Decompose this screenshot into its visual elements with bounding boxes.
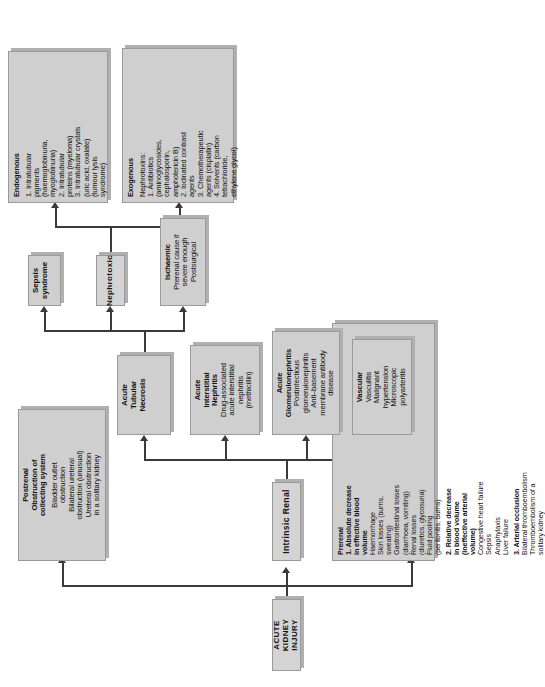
node-line: in a solitary kidney (93, 414, 102, 556)
node-line: Exogenous (127, 54, 135, 197)
connector-to-endogenous (55, 206, 57, 228)
connector-atn-vbus (44, 331, 184, 333)
arrow-ischaemic (179, 306, 187, 312)
node-acute-glomerulonephritis[interactable]: AcuteGlomerulonephritisPostinfectiousglo… (272, 331, 340, 435)
node-line: ethylene glycol) (230, 54, 238, 197)
node-line: collecting system (39, 414, 48, 556)
node-line: (methicillin) (245, 350, 254, 430)
node-exogenous[interactable]: Exogenous Nephrotoxins:1. Antibiotics(am… (122, 48, 234, 203)
arrow-ain (221, 435, 229, 441)
arrow-atn (140, 435, 148, 441)
node-nephrotoxic[interactable]: Nephrotoxic (96, 255, 125, 306)
node-line: Postsurgical (190, 223, 199, 301)
arrow-agn (302, 435, 310, 441)
connector-to-agn (306, 439, 308, 461)
node-line: disease (327, 336, 336, 430)
connector-to-sepsis (44, 310, 46, 332)
node-intrinsic-renal[interactable]: Intrinsic Renal (272, 482, 301, 561)
node-nephrotoxic-label: Nephrotoxic (106, 255, 115, 306)
connector-to-ischaemic (183, 310, 185, 332)
node-line: solitary kidney (537, 329, 545, 555)
connector-to-nephrotoxic (110, 310, 112, 332)
connector-to-atn (144, 439, 146, 461)
node-postrenal[interactable]: PostrenalObstruction ofcollecting system… (18, 409, 106, 561)
connector-intrinsic-bus (286, 460, 288, 482)
node-line: Congestive heart failure (477, 329, 485, 555)
connector-trunk-prerenal (411, 561, 413, 587)
connector-to-ain (225, 439, 227, 461)
node-line: (ineffective arterial (461, 329, 469, 555)
node-endogenous[interactable]: Endogenous 1. Intratubularpigments(haemo… (8, 51, 108, 203)
node-line: syndrome) (99, 57, 107, 197)
node-line: Endogenous (13, 57, 21, 197)
node-title-text: ACUTE KIDNEY INJURY (273, 604, 300, 666)
node-intrinsic-renal-label: Intrinsic Renal (282, 489, 292, 554)
node-ischaemic[interactable]: IschaemicPrerenal cause ifsevere enoughP… (160, 218, 206, 306)
connector-trunk-postrenal (62, 561, 64, 587)
node-acute-kidney-injury[interactable]: ACUTE KIDNEY INJURY (272, 599, 301, 671)
connector-atn-bus (144, 331, 146, 355)
connector-main-trunk (62, 586, 412, 588)
arrow-sepsis (40, 306, 48, 312)
node-line: (peritonitis, burns) (434, 329, 442, 555)
node-acute-interstitial-nephritis[interactable]: AcuteInterstitialNephritisDrug-associate… (190, 345, 260, 435)
arrow-nephrotoxic (106, 306, 114, 312)
node-sepsis-syndrome[interactable]: Sepsissyndrome (28, 255, 61, 306)
connector-nephrotoxic-bus (110, 227, 112, 255)
arrow-root-intrinsic (282, 567, 290, 573)
node-vascular[interactable]: VascularVasculitisMalignanthypertensionM… (352, 339, 412, 435)
node-acute-tubular-necrosis[interactable]: AcuteTubularNecrosis (117, 355, 171, 435)
node-line: Liver failure (502, 329, 510, 555)
node-line: syndrome (41, 260, 50, 301)
node-line: polyarteritis (399, 344, 408, 430)
node-line: Necrosis (139, 360, 148, 430)
